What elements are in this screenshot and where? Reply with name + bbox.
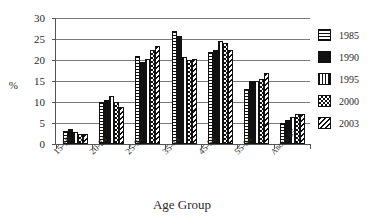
bar-group — [172, 18, 197, 144]
y-axis-tickmark — [52, 102, 56, 103]
legend: 19851990199520002003 — [318, 26, 382, 136]
y-axis-tickmark — [52, 39, 56, 40]
bar — [83, 134, 88, 144]
bar-group — [208, 18, 233, 144]
legend-label: 2000 — [339, 96, 359, 107]
bar-group — [99, 18, 124, 144]
bar — [300, 114, 305, 144]
bar — [192, 59, 197, 144]
bar — [264, 73, 269, 144]
x-axis-title: Age Group — [55, 198, 309, 212]
legend-label: 2003 — [339, 118, 359, 129]
bar-group — [280, 18, 305, 144]
bar-chart: % 051015202530 15-1920-2425-3435-4445-54… — [0, 0, 385, 222]
plot-area — [55, 18, 310, 145]
y-axis-tick-label: 0 — [23, 139, 45, 150]
legend-item: 1985 — [318, 26, 382, 48]
y-axis-tickmark — [52, 123, 56, 124]
legend-label: 1995 — [339, 74, 359, 85]
x-axis-tickmark — [310, 144, 311, 149]
y-axis-tick-label: 10 — [23, 97, 45, 108]
y-axis-tick-label: 30 — [23, 13, 45, 24]
y-axis-tickmark — [52, 18, 56, 19]
legend-item: 2003 — [318, 114, 382, 136]
y-axis-title: % — [2, 80, 18, 91]
legend-item: 2000 — [318, 92, 382, 114]
y-axis-tickmark — [52, 81, 56, 82]
legend-item: 1990 — [318, 48, 382, 70]
y-axis-tick-label: 15 — [23, 76, 45, 87]
y-axis-tick-label: 5 — [23, 118, 45, 129]
bar — [155, 46, 160, 144]
bar-group — [244, 18, 269, 144]
legend-label: 1990 — [339, 52, 359, 63]
y-axis-tickmark — [52, 60, 56, 61]
bar — [119, 107, 124, 144]
legend-swatch-1990 — [318, 51, 331, 63]
bar — [228, 50, 233, 145]
legend-item: 1995 — [318, 70, 382, 92]
legend-swatch-2003 — [318, 117, 331, 129]
legend-swatch-1985 — [318, 29, 331, 41]
legend-swatch-1995 — [318, 73, 331, 85]
bar-group — [63, 18, 88, 144]
legend-swatch-2000 — [318, 95, 331, 107]
legend-label: 1985 — [339, 30, 359, 41]
y-axis-tick-label: 25 — [23, 34, 45, 45]
bar-group — [135, 18, 160, 144]
y-axis-tick-label: 20 — [23, 55, 45, 66]
